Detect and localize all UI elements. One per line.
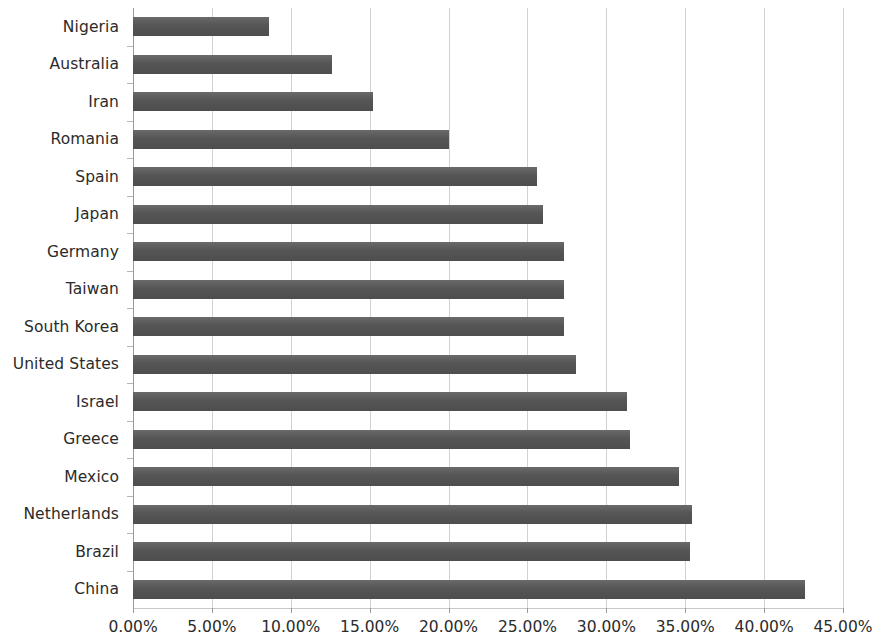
bar-row <box>133 129 843 149</box>
value-axis-label: 40.00% <box>735 618 794 636</box>
value-axis-label: 15.00% <box>340 618 399 636</box>
bar-row <box>133 92 843 112</box>
value-axis-label: 5.00% <box>187 618 236 636</box>
bar-row <box>133 279 843 299</box>
bar-row <box>133 242 843 262</box>
bar[interactable] <box>133 317 564 336</box>
category-label: Germany <box>47 242 119 261</box>
value-axis-label: 0.00% <box>108 618 157 636</box>
value-axis-label: 20.00% <box>419 618 478 636</box>
bar[interactable] <box>133 92 373 111</box>
category-label: Japan <box>75 205 119 224</box>
category-label: China <box>74 580 119 599</box>
bar[interactable] <box>133 130 449 149</box>
category-label: Romania <box>51 130 119 149</box>
bar[interactable] <box>133 467 679 486</box>
bar[interactable] <box>133 242 564 261</box>
category-label: Spain <box>75 167 119 186</box>
bar-row <box>133 542 843 562</box>
category-label: Nigeria <box>63 17 119 36</box>
bar[interactable] <box>133 205 543 224</box>
value-axis-label: 25.00% <box>498 618 557 636</box>
plot-area <box>133 8 843 608</box>
bar-row <box>133 17 843 37</box>
category-label: South Korea <box>24 317 119 336</box>
category-label: Taiwan <box>66 280 119 299</box>
bar[interactable] <box>133 55 332 74</box>
bar[interactable] <box>133 542 690 561</box>
bar-row <box>133 317 843 337</box>
category-label: Australia <box>50 55 119 74</box>
bar[interactable] <box>133 505 692 524</box>
bar-row <box>133 392 843 412</box>
category-label: Brazil <box>75 542 119 561</box>
bar-row <box>133 504 843 524</box>
bar[interactable] <box>133 392 627 411</box>
bar[interactable] <box>133 430 630 449</box>
bar[interactable] <box>133 580 805 599</box>
category-label: Mexico <box>64 467 119 486</box>
bar-row <box>133 354 843 374</box>
bar-row <box>133 467 843 487</box>
bar[interactable] <box>133 17 269 36</box>
value-axis-label: 45.00% <box>813 618 872 636</box>
bar-row <box>133 429 843 449</box>
value-axis-label: 30.00% <box>577 618 636 636</box>
value-axis: 0.00%5.00%10.00%15.00%20.00%25.00%30.00%… <box>0 612 861 642</box>
bar-row <box>133 167 843 187</box>
value-axis-label: 10.00% <box>261 618 320 636</box>
bar[interactable] <box>133 355 576 374</box>
category-label: Iran <box>88 92 119 111</box>
category-label: United States <box>13 355 119 374</box>
gridline <box>843 8 844 608</box>
bar-row <box>133 204 843 224</box>
category-label: Netherlands <box>23 505 119 524</box>
category-label: Israel <box>76 392 119 411</box>
category-label: Greece <box>63 430 119 449</box>
value-axis-label: 35.00% <box>656 618 715 636</box>
category-axis: NigeriaAustraliaIranRomaniaSpainJapanGer… <box>0 8 127 608</box>
bar[interactable] <box>133 280 564 299</box>
bar-row <box>133 579 843 599</box>
bar[interactable] <box>133 167 537 186</box>
bar-row <box>133 54 843 74</box>
